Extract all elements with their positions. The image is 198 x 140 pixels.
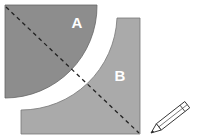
pencil-icon [149,102,190,137]
label-b: B [115,67,126,84]
label-a: A [72,14,83,31]
diagram: A B [0,0,198,140]
